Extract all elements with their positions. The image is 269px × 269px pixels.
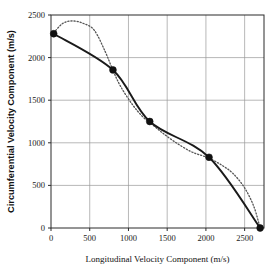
plot-grid	[51, 15, 264, 228]
y-tick-label: 2500	[28, 10, 45, 20]
x-tick-label: 500	[83, 233, 96, 243]
chart-figure: 05001000150020002500 0500100015002000250…	[0, 0, 269, 269]
x-tick-label: 0	[49, 233, 53, 243]
x-axis-tick-labels: 05001000150020002500	[49, 233, 253, 243]
y-tick-label: 0	[41, 223, 45, 233]
y-tick-label: 1500	[28, 95, 45, 105]
plot-frame	[51, 15, 264, 228]
measured-series-solid-line	[54, 34, 260, 228]
vertical-gridlines	[90, 15, 245, 228]
data-point-marker	[206, 154, 213, 161]
x-tick-label: 1500	[159, 233, 176, 243]
x-tick-label: 2500	[236, 233, 253, 243]
x-tick-label: 2000	[197, 233, 214, 243]
y-tick-label: 1000	[28, 138, 45, 148]
data-point-marker	[50, 30, 57, 37]
measured-series-markers	[50, 30, 263, 231]
x-tick-label: 1000	[120, 233, 137, 243]
y-tick-label: 2000	[28, 53, 45, 63]
y-tick-label: 500	[32, 180, 45, 190]
data-point-marker	[257, 225, 264, 232]
velocity-component-chart: 05001000150020002500 0500100015002000250…	[0, 0, 269, 269]
data-point-marker	[110, 67, 117, 74]
data-point-marker	[146, 118, 153, 125]
y-axis-tick-labels: 05001000150020002500	[28, 10, 45, 233]
horizontal-gridlines	[51, 58, 264, 186]
x-axis-title: Longitudinal Velocity Component (m/s)	[85, 254, 229, 264]
y-axis-title: Circumferential Velocity Component (m/s)	[6, 30, 16, 213]
model-series-dotted-line	[54, 21, 260, 228]
